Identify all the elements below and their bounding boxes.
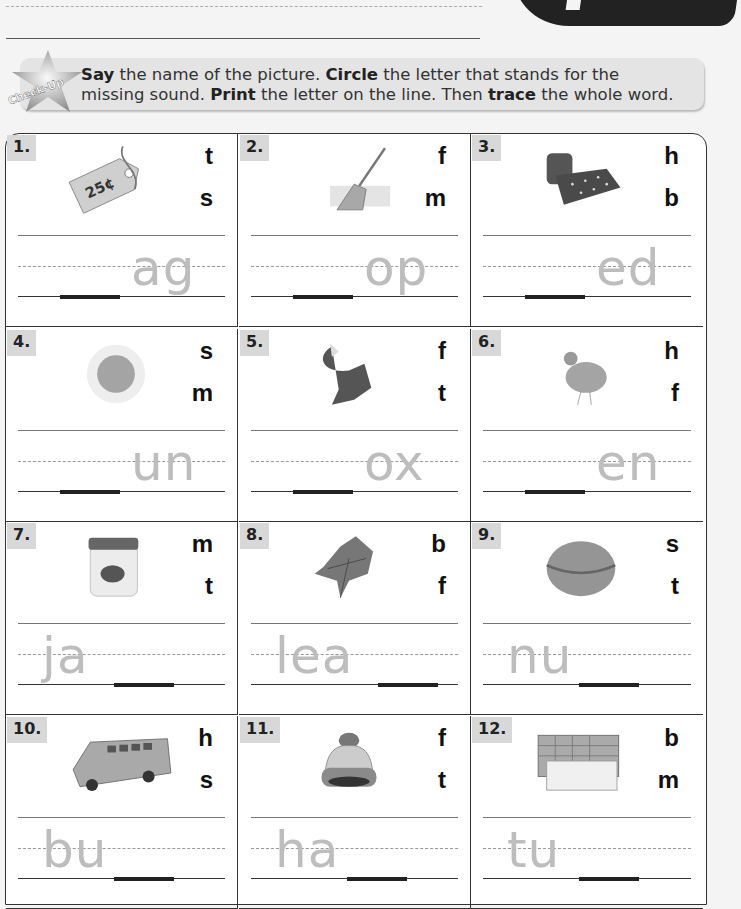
trace-word: ha — [275, 818, 339, 882]
letter-choice[interactable]: m — [192, 379, 213, 407]
trace-word: nu — [507, 624, 572, 688]
exercise-cell-4: 4.smun — [6, 329, 238, 522]
letter-choice[interactable]: s — [200, 337, 213, 365]
trace-word: en — [596, 431, 660, 495]
trace-word: un — [131, 431, 196, 495]
trace-word: ag — [131, 236, 195, 300]
item-number: 9. — [472, 523, 501, 549]
letter-choice[interactable]: b — [664, 724, 679, 752]
item-number: 2. — [240, 135, 269, 161]
letter-choice[interactable]: f — [438, 337, 446, 365]
instruction-part: Circle — [325, 65, 378, 84]
item-number: 5. — [240, 330, 269, 356]
jam-jar-picture-icon — [56, 528, 176, 606]
item-number: 3. — [472, 135, 501, 161]
nut-picture-icon — [521, 528, 641, 606]
instruction-part: the letter on the line. Then — [256, 85, 488, 104]
item-number: 10. — [7, 717, 47, 743]
item-number: 12. — [472, 717, 512, 743]
item-number: 8. — [240, 523, 269, 549]
letter-choice[interactable]: h — [664, 337, 679, 365]
writing-mid-dashed-line — [251, 461, 458, 462]
exercise-cell-5: 5.ftox — [239, 329, 471, 522]
exercise-cell-3: 3.hbed — [471, 134, 703, 327]
letter-choice[interactable]: m — [658, 766, 679, 794]
check-up-star-icon: Check-Up — [4, 48, 86, 118]
item-number: 1. — [7, 135, 36, 161]
letter-choice[interactable]: t — [205, 142, 213, 170]
instruction-part: the name of the picture. — [114, 65, 325, 84]
letter-choice[interactable]: t — [205, 572, 213, 600]
trace-word: bu — [42, 818, 107, 882]
bed-picture-icon — [521, 140, 641, 218]
top-dashed-guideline — [6, 6, 482, 7]
letter-choice[interactable]: b — [431, 530, 446, 558]
exercise-cell-6: 6.hfen — [471, 329, 703, 522]
tub-picture-icon — [521, 722, 641, 800]
answer-blank[interactable] — [347, 877, 407, 881]
trace-word: ox — [364, 431, 425, 495]
letter-choice[interactable]: m — [425, 184, 446, 212]
letter-choice[interactable]: s — [200, 766, 213, 794]
answer-blank[interactable] — [60, 295, 120, 299]
trace-word: tu — [507, 818, 560, 882]
item-number: 4. — [7, 330, 36, 356]
answer-blank[interactable] — [114, 877, 174, 881]
item-number: 11. — [240, 717, 280, 743]
answer-blank[interactable] — [60, 490, 120, 494]
fox-picture-icon — [289, 335, 409, 413]
letter-choice[interactable]: s — [666, 530, 679, 558]
letter-choice[interactable]: h — [198, 724, 213, 752]
letter-choice[interactable]: f — [671, 379, 679, 407]
letter-choice[interactable]: f — [438, 572, 446, 600]
item-number: 7. — [7, 523, 36, 549]
instruction-part: trace — [488, 85, 536, 104]
letter-choice[interactable]: h — [664, 142, 679, 170]
exercise-cell-9: 9.stnu — [471, 522, 703, 715]
trace-word: ja — [42, 624, 89, 688]
top-writing-line — [6, 38, 480, 39]
answer-blank[interactable] — [525, 490, 585, 494]
writing-baseline — [251, 491, 458, 492]
answer-blank[interactable] — [579, 877, 639, 881]
letter-choice[interactable]: m — [192, 530, 213, 558]
hen-picture-icon — [521, 335, 641, 413]
trace-word: op — [364, 236, 428, 300]
exercise-cell-8: 8.bflea — [239, 522, 471, 715]
instruction-part: Print — [210, 85, 256, 104]
hat-picture-icon — [289, 722, 409, 800]
item-number: 6. — [472, 330, 501, 356]
answer-blank[interactable] — [114, 683, 174, 687]
letter-choice[interactable]: f — [438, 142, 446, 170]
letter-choice[interactable]: t — [671, 572, 679, 600]
trace-word: ed — [596, 236, 661, 300]
instruction-part: Say — [81, 65, 114, 84]
exercise-cell-1: 1.25¢tsag — [6, 134, 238, 327]
exercise-cell-11: 11.ftha — [239, 716, 471, 909]
trace-word: lea — [275, 624, 353, 688]
worksheet-grid: 1.25¢tsag2.fmop3.hbed4.smun5.ftox6.hfen7… — [5, 133, 707, 905]
letter-choice[interactable]: t — [438, 766, 446, 794]
exercise-cell-7: 7.mtja — [6, 522, 238, 715]
corner-decoration — [503, 0, 741, 26]
bus-picture-icon — [56, 722, 176, 800]
leaf-picture-icon — [289, 528, 409, 606]
letter-choice[interactable]: s — [200, 184, 213, 212]
price-tag-picture-icon: 25¢ — [56, 140, 176, 218]
answer-blank[interactable] — [293, 490, 353, 494]
answer-blank[interactable] — [378, 683, 438, 687]
letter-choice[interactable]: t — [438, 379, 446, 407]
exercise-cell-10: 10.hsbu — [6, 716, 238, 909]
letter-choice[interactable]: f — [438, 724, 446, 752]
sun-picture-icon — [56, 335, 176, 413]
letter-choice[interactable]: b — [664, 184, 679, 212]
exercise-cell-12: 12.bmtu — [471, 716, 703, 909]
answer-blank[interactable] — [579, 683, 639, 687]
mop-picture-icon — [289, 140, 409, 218]
instruction-part: the whole word. — [536, 85, 673, 104]
writing-top-line — [251, 430, 458, 431]
answer-blank[interactable] — [293, 295, 353, 299]
exercise-cell-2: 2.fmop — [239, 134, 471, 327]
answer-blank[interactable] — [525, 295, 585, 299]
instruction-text: Say the name of the picture. Circle the … — [81, 65, 681, 105]
